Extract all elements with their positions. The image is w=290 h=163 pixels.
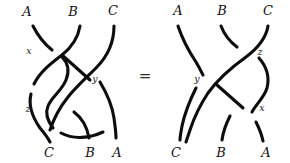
left-top-label-2: B [67,4,78,19]
right-strand-a-upper [178,26,203,75]
right-strand-x-tail [256,122,263,141]
right-bottom-label-3: A [260,145,270,160]
left-braid: A B C C B A x z y [21,3,121,160]
left-strand-y-to-bottom [100,82,116,138]
left-strand-bmid-bottom [74,112,89,138]
left-top-label-3: C [108,3,118,18]
equals-sign: = [139,67,152,85]
right-top-label-2: B [216,3,227,18]
left-bottom-label-2: B [84,145,95,160]
right-braid: A B C C B A z y x [171,3,273,160]
left-crossing-label-x: x [26,45,32,56]
right-strand-b-upper [221,26,237,47]
left-strand-a-tail [61,132,103,137]
left-top-label-1: A [21,4,31,19]
right-crossing-label-x: x [259,102,265,113]
left-strand-b-over-x [34,26,80,84]
left-strand-c [50,26,114,130]
right-top-label-1: A [172,3,182,18]
left-strand-a-lower [47,57,68,128]
right-bottom-label-2: B [215,145,226,160]
braid-relation-figure: A B C C B A x z y = A B C C B [0,0,290,163]
right-strand-mid-diagonal [217,85,243,108]
right-top-label-3: C [263,3,273,18]
right-crossing-label-y: y [193,73,200,84]
left-bottom-label-3: A [111,145,121,160]
left-crossing-label-y: y [91,73,98,84]
right-crossing-label-z: z [256,46,263,57]
left-strand-a-upper [33,26,52,50]
right-bottom-label-1: C [171,145,181,160]
right-strand-b-bottom [222,116,230,140]
left-bottom-label-1: C [44,145,54,160]
left-crossing-label-z: z [24,103,31,114]
